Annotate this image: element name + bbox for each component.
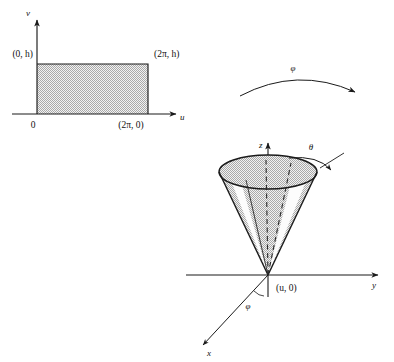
- u-axis-label: u: [180, 112, 185, 122]
- map-arrow-label: φ: [291, 63, 296, 73]
- phi-angle-arc: [254, 291, 264, 296]
- figure-canvas: v u 0 (0, h) (2π, h) (2π, 0) φ: [0, 0, 394, 362]
- x-axis: [203, 275, 268, 345]
- corner-label-top-left: (0, h): [12, 49, 33, 60]
- uv-parameter-panel: v u 0 (0, h) (2π, h) (2π, 0): [12, 8, 185, 131]
- z-axis-label: z: [258, 140, 263, 150]
- map-arrow-group: φ: [240, 63, 355, 96]
- parameter-rectangle: [37, 64, 148, 114]
- v-axis-label: v: [26, 8, 30, 18]
- phi-label: φ: [246, 301, 251, 311]
- theta-radius-line: [320, 153, 344, 168]
- math-figure-svg: v u 0 (0, h) (2π, h) (2π, 0) φ: [0, 0, 394, 362]
- cone-panel: z y x (u, 0) θ φ: [186, 140, 378, 358]
- theta-label: θ: [309, 142, 314, 152]
- x-axis-label: x: [206, 348, 211, 358]
- map-arrow-curve: [240, 80, 355, 96]
- origin-label: 0: [31, 120, 36, 130]
- corner-label-top-right: (2π, h): [154, 49, 179, 60]
- apex-coordinate-label: (u, 0): [276, 283, 297, 294]
- corner-label-bottom-right: (2π, 0): [118, 120, 143, 131]
- y-axis-label: y: [371, 280, 376, 290]
